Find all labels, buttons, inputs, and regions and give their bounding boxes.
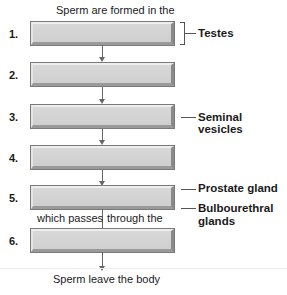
label-prostate-gland: Prostate gland (198, 182, 278, 194)
arrow-6-out-line (102, 252, 103, 267)
step-box-2[interactable] (31, 63, 174, 86)
step-number-1: 1. (9, 28, 18, 40)
step-box-6[interactable] (31, 229, 174, 252)
step-box-4[interactable] (31, 146, 174, 169)
label-bulbourethral-line1: Bulbourethral (198, 202, 273, 214)
label-seminal-vesicles: Seminal vesicles (198, 111, 287, 135)
arrow-down-icon (99, 140, 105, 145)
connector-text-left: which passes (37, 212, 103, 224)
step-number-4: 4. (9, 152, 18, 164)
step-number-2: 2. (9, 69, 18, 81)
arrow-down-icon (99, 99, 105, 104)
step-number-6: 6. (9, 235, 18, 247)
step-box-5[interactable] (31, 186, 174, 209)
label-bulbourethral-glands: Bulbourethral glands (198, 202, 273, 228)
step-box-3[interactable] (31, 105, 174, 128)
arrow-down-icon (99, 57, 105, 62)
testes-leader-line (185, 33, 196, 34)
bottom-caption: Sperm leave the body (53, 273, 160, 285)
connector-text-right: through the (107, 212, 163, 224)
label-bulbourethral-line2: glands (198, 215, 235, 227)
top-caption: Sperm are formed in the (56, 4, 175, 16)
bulbourethral-leader-line (181, 208, 196, 209)
step-box-1[interactable] (31, 22, 174, 45)
label-testes: Testes (198, 27, 234, 39)
step-number-5: 5. (9, 192, 18, 204)
prostate-leader-line (181, 189, 196, 190)
seminal-leader-line (181, 117, 196, 118)
step-number-3: 3. (9, 111, 18, 123)
divider (0, 268, 287, 269)
